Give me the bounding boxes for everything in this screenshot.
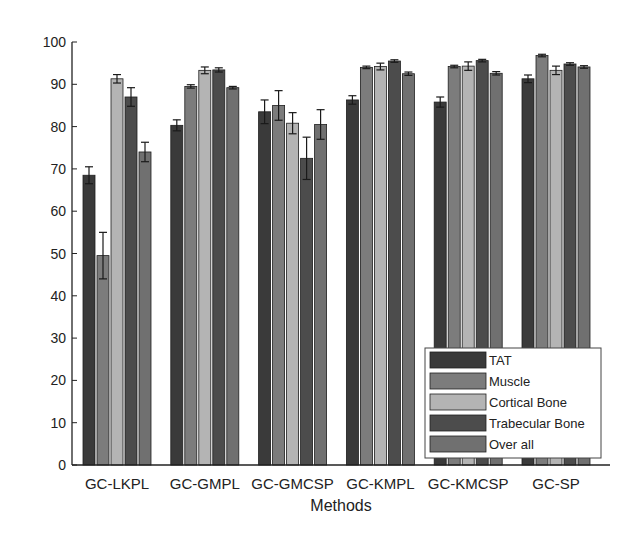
x-tick-label: GC-LKPL xyxy=(85,475,149,492)
legend-swatch xyxy=(430,394,486,410)
bar-cortical-bone-gc-kmpl xyxy=(374,67,386,465)
bar-over-all-gc-lkpl xyxy=(139,152,151,465)
y-tick-label: 50 xyxy=(50,246,66,262)
y-tick-label: 40 xyxy=(50,288,66,304)
legend-label: Muscle xyxy=(489,374,530,389)
x-axis-title: Methods xyxy=(310,497,371,514)
bar-muscle-gc-gmpl xyxy=(185,86,197,465)
bar-muscle-gc-lkpl xyxy=(97,256,109,465)
legend-label: Cortical Bone xyxy=(489,395,567,410)
y-tick-label: 30 xyxy=(50,330,66,346)
bar-trabecular-bone-gc-gmcsp xyxy=(301,158,313,465)
y-tick-label: 10 xyxy=(50,415,66,431)
bar-trabecular-bone-gc-kmpl xyxy=(388,61,400,465)
legend-label: Over all xyxy=(489,437,534,452)
bar-over-all-gc-gmcsp xyxy=(315,124,327,465)
bar-over-all-gc-gmpl xyxy=(227,88,239,465)
bar-cortical-bone-gc-gmcsp xyxy=(287,123,299,465)
x-tick-label: GC-SP xyxy=(532,475,580,492)
bar-tat-gc-gmpl xyxy=(171,125,183,465)
x-tick-label: GC-KMPL xyxy=(346,475,414,492)
y-tick-label: 0 xyxy=(58,457,66,473)
x-tick-label: GC-KMCSP xyxy=(428,475,509,492)
bar-trabecular-bone-gc-lkpl xyxy=(125,97,137,465)
bar-muscle-gc-gmcsp xyxy=(273,105,285,465)
bar-tat-gc-kmpl xyxy=(346,100,358,465)
y-tick-label: 100 xyxy=(43,34,67,50)
bar-trabecular-bone-gc-gmpl xyxy=(213,70,225,465)
bar-cortical-bone-gc-lkpl xyxy=(111,79,123,465)
legend-swatch xyxy=(430,436,486,452)
x-tick-label: GC-GMPL xyxy=(170,475,240,492)
legend-swatch xyxy=(430,415,486,431)
legend-swatch xyxy=(430,373,486,389)
bar-tat-gc-lkpl xyxy=(83,175,95,465)
y-tick-label: 90 xyxy=(50,76,66,92)
y-tick-label: 60 xyxy=(50,203,66,219)
y-tick-label: 80 xyxy=(50,119,66,135)
y-tick-label: 70 xyxy=(50,161,66,177)
bar-cortical-bone-gc-gmpl xyxy=(199,70,211,465)
bar-muscle-gc-kmpl xyxy=(360,67,372,465)
legend-label: TAT xyxy=(489,353,512,368)
legend-label: Trabecular Bone xyxy=(489,416,585,431)
legend-swatch xyxy=(430,352,486,368)
bar-chart: GC-LKPLGC-GMPLGC-GMCSPGC-KMPLGC-KMCSPGC-… xyxy=(0,0,639,534)
x-tick-label: GC-GMCSP xyxy=(251,475,334,492)
legend: TATMuscleCortical BoneTrabecular BoneOve… xyxy=(425,348,601,458)
bar-tat-gc-gmcsp xyxy=(259,112,271,465)
y-tick-label: 20 xyxy=(50,372,66,388)
bar-over-all-gc-kmpl xyxy=(402,74,414,465)
